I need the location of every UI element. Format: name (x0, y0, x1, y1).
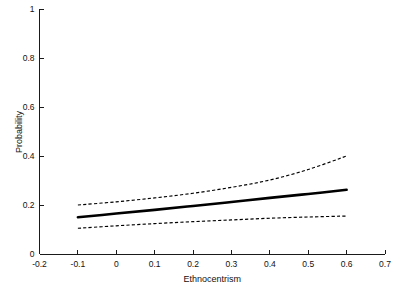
upper-confidence-band (78, 156, 347, 205)
x-tick-label: 0.7 (379, 259, 391, 269)
y-tick-label: 0 (17, 249, 35, 259)
x-tick-label: 0.4 (264, 259, 276, 269)
plot-area (0, 0, 400, 287)
predicted-probability-line (78, 190, 347, 217)
x-tick-label: -0.1 (71, 259, 86, 269)
y-tick-label: 0.8 (17, 53, 35, 63)
y-tick-label: 0.2 (17, 200, 35, 210)
x-tick-label: 0.6 (341, 259, 353, 269)
x-tick-label: 0.5 (302, 259, 314, 269)
x-tick-label: -0.2 (32, 259, 47, 269)
lower-confidence-band (78, 216, 347, 228)
x-axis-title: Ethnocentrism (183, 274, 241, 284)
x-tick-label: 0.3 (226, 259, 238, 269)
x-tick-label: 0 (114, 259, 119, 269)
x-tick-label: 0.1 (149, 259, 161, 269)
figure-container: -0.2-0.100.10.20.30.40.50.60.7 00.20.40.… (0, 0, 400, 287)
y-tick-label: 1 (17, 4, 35, 14)
x-tick-label: 0.2 (187, 259, 199, 269)
y-axis-title: Probability (14, 110, 24, 152)
